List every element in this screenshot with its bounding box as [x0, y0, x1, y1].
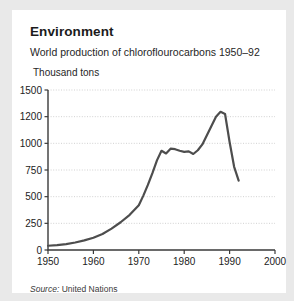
gridlines	[48, 90, 275, 223]
x-tick-label: 1960	[82, 256, 105, 267]
y-tick-label: 250	[25, 218, 42, 229]
x-tick-labels: 195019601970198019902000	[37, 256, 287, 267]
y-tick-label: 1000	[20, 138, 43, 149]
x-tick-label: 1990	[218, 256, 241, 267]
y-tick-label: 0	[36, 245, 42, 256]
line-chart: 0250500750100012001500 19501960197019801…	[0, 0, 294, 301]
y-tick-labels: 0250500750100012001500	[20, 85, 43, 256]
data-line-series-0	[48, 112, 239, 246]
x-tick-label: 1980	[173, 256, 196, 267]
x-tick-label: 2000	[264, 256, 287, 267]
x-tick-label: 1970	[128, 256, 151, 267]
x-tick-label: 1950	[37, 256, 60, 267]
y-tick-label: 1200	[20, 111, 43, 122]
y-tick-label: 750	[25, 165, 42, 176]
y-tick-label: 500	[25, 191, 42, 202]
y-tick-label: 1500	[20, 85, 43, 96]
